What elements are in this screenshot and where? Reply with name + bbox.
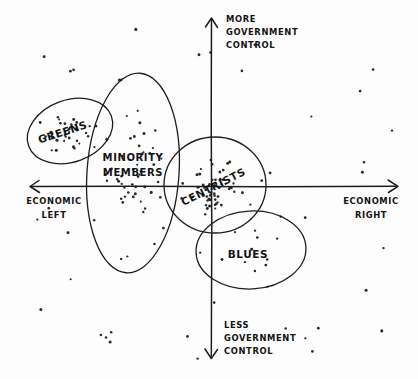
scatter-dot-layer [36,28,393,360]
axis-label-left-line2: LEFT [42,210,67,220]
label-blues: BLUES [228,248,269,260]
axis-label-right-line1: ECONOMIC [343,196,399,206]
axis-label-left-line1: ECONOMIC [26,196,82,206]
label-minority-members-line1: MINORITY [103,152,164,163]
axis-label-top-line1: MORE [226,14,256,24]
axis-label-top-line2: GOVERNMENT [226,27,298,37]
label-minority-members-line2: MEMBERS [103,167,163,178]
axis-label-right-line2: RIGHT [355,210,387,220]
axis-label-bottom-line1: LESS [224,320,249,330]
political-spectrum-diagram: GREENS. MINORITY MEMBERS CENTRISTS BLUES… [0,0,418,379]
group-label-layer: GREENS. MINORITY MEMBERS CENTRISTS BLUES [36,117,268,260]
diagram-canvas: GREENS. MINORITY MEMBERS CENTRISTS BLUES… [0,0,418,379]
axis-label-top-line3: CONTROL [226,40,275,50]
axis-label-bottom-line2: GOVERNMENT [224,333,296,343]
axis-label-bottom-line3: CONTROL [224,346,273,356]
